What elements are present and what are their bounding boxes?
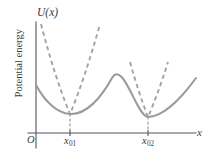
y-axis-title: Potential energy [14, 18, 25, 108]
potential-energy-curve [36, 74, 196, 117]
y-axis-label: U(x) [37, 7, 58, 19]
x-tick-label-x02: x02 [142, 136, 154, 147]
x-tick-label-x02-base: x [142, 135, 147, 146]
harmonic-approximation-well-1-curve [41, 24, 100, 114]
x-axis-label: x [197, 127, 202, 138]
harmonic-approximation-well-2-curve [130, 62, 168, 117]
x-tick-label-x02-sub: 02 [147, 140, 154, 148]
x-tick-label-x01: x01 [64, 136, 76, 147]
x-tick-label-x01-base: x [64, 135, 69, 146]
potential-energy-figure: U(x) x O Potential energy x01 x02 [0, 0, 208, 164]
origin-label: O [27, 135, 35, 146]
x-tick-label-x01-sub: 01 [69, 140, 76, 148]
